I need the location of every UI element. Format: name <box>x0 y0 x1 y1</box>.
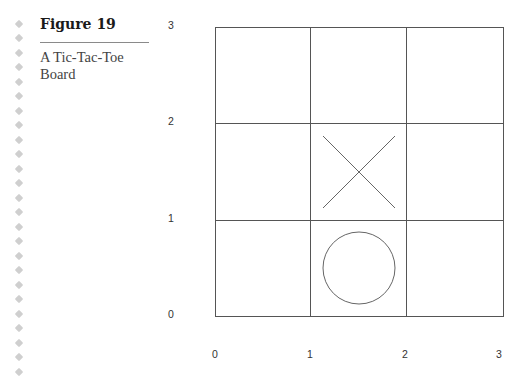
tic-tac-toe-board <box>0 0 527 381</box>
o-mark-icon <box>323 232 395 304</box>
x-mark-icon <box>323 136 395 208</box>
